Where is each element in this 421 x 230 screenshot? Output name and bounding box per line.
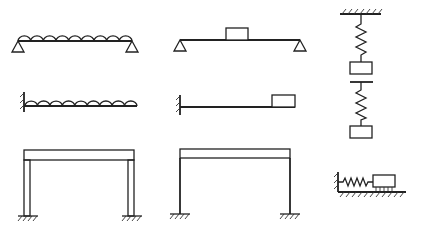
hatch-line <box>185 214 189 219</box>
simply-supported-beam-distributed-mass <box>12 36 138 52</box>
pin-support-right <box>126 41 138 52</box>
column-right <box>128 160 134 216</box>
hatch-line <box>285 214 289 219</box>
hatch-line <box>122 216 126 221</box>
ground-hatch <box>170 214 299 219</box>
simply-supported-beam-lumped-mass <box>174 28 306 51</box>
tip-mass-block <box>272 95 295 107</box>
mass-block <box>350 126 372 138</box>
hatch-line <box>295 214 299 219</box>
spring-mass-free <box>350 82 373 138</box>
pin-support-left <box>12 41 24 52</box>
hatch-line <box>18 216 22 221</box>
hatch-line <box>175 214 179 219</box>
hatch-line <box>23 216 27 221</box>
rigid-girder <box>24 150 134 160</box>
hatch-line <box>280 214 284 219</box>
hatch-line <box>28 216 32 221</box>
hatch-line <box>180 214 184 219</box>
spring <box>356 14 366 62</box>
hatch-line <box>132 216 136 221</box>
hanging-spring-mass <box>340 9 382 74</box>
diagram-canvas <box>0 0 421 230</box>
pin-support-left <box>174 40 186 51</box>
lumped-mass-block <box>226 28 248 40</box>
hatch-line <box>290 214 294 219</box>
horizontal-spring-mass-rollers <box>334 172 406 197</box>
portal-frame-thin-columns <box>170 149 300 219</box>
cantilever-tip-mass <box>176 95 295 115</box>
portal-frame-thick-columns <box>18 150 142 221</box>
hatch-line <box>33 216 37 221</box>
mass-block <box>373 175 395 187</box>
hatch-line <box>127 216 131 221</box>
mass-block <box>350 62 372 74</box>
hatch-line <box>137 216 141 221</box>
column-left <box>24 160 30 216</box>
cantilever-distributed-mass <box>20 92 137 112</box>
spring <box>338 178 373 186</box>
ground-hatch <box>18 216 141 221</box>
rigid-girder <box>180 149 290 158</box>
spring <box>356 82 366 126</box>
hatch-line <box>170 214 174 219</box>
pin-support-right <box>294 40 306 51</box>
